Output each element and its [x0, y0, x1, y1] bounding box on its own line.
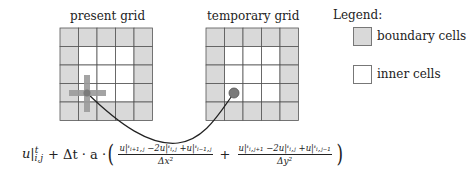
legend-label-boundary: boundary cells: [377, 29, 466, 43]
boundary-cell: [243, 28, 262, 47]
boundary-cell: [280, 47, 299, 66]
boundary-cell: [225, 102, 244, 121]
boundary-cell: [280, 65, 299, 84]
boundary-cell: [134, 28, 153, 47]
boundary-cell: [116, 102, 135, 121]
legend-swatch-inner: [353, 65, 372, 84]
formula-plus: +: [220, 147, 231, 162]
formula-lhs: u|ti,j: [22, 145, 43, 164]
inner-cell: [116, 84, 135, 103]
inner-cell: [116, 65, 135, 84]
boundary-cell: [116, 28, 135, 47]
boundary-cell: [60, 65, 79, 84]
formula-time-step: + Δt · a ·: [48, 147, 106, 162]
inner-cell: [262, 65, 281, 84]
inner-cell: [243, 47, 262, 66]
inner-cell: [262, 84, 281, 103]
present-grid: [60, 28, 153, 121]
boundary-cell: [206, 84, 225, 103]
boundary-cell: [262, 102, 281, 121]
legend-swatch-boundary: [353, 27, 372, 46]
boundary-cell: [262, 28, 281, 47]
inner-cell: [243, 65, 262, 84]
inner-cell: [97, 47, 116, 66]
boundary-cell: [60, 47, 79, 66]
inner-cell: [243, 84, 262, 103]
inner-cell: [225, 47, 244, 66]
boundary-cell: [79, 28, 98, 47]
update-formula: u|ti,j + Δt · a · ( u|ᵗᵢ₊₁,ⱼ −2u|ᵗᵢ,ⱼ +u…: [22, 142, 344, 166]
inner-cell: [262, 47, 281, 66]
boundary-cell: [206, 28, 225, 47]
boundary-cell: [60, 28, 79, 47]
boundary-cell: [206, 65, 225, 84]
legend-label-inner: inner cells: [377, 67, 441, 81]
boundary-cell: [134, 47, 153, 66]
boundary-cell: [206, 47, 225, 66]
formula-open-paren: (: [108, 142, 115, 166]
boundary-cell: [280, 102, 299, 121]
boundary-cell: [60, 102, 79, 121]
inner-cell: [116, 47, 135, 66]
formula-close-paren: ): [336, 142, 343, 166]
boundary-cell: [97, 28, 116, 47]
inner-cell: [225, 65, 244, 84]
temporary-grid: [206, 28, 299, 121]
inner-cell: [97, 65, 116, 84]
target-cell-dot-icon: [229, 88, 239, 98]
formula-fraction-y: u|ᵗᵢ,ⱼ₊₁ −2u|ᵗᵢ,ⱼ +u|ᵗᵢ,ⱼ₋₁ Δy²: [238, 143, 332, 166]
legend-title: Legend:: [333, 8, 382, 22]
boundary-cell: [280, 84, 299, 103]
boundary-cell: [225, 28, 244, 47]
boundary-cell: [134, 84, 153, 103]
boundary-cell: [134, 102, 153, 121]
boundary-cell: [280, 28, 299, 47]
boundary-cell: [243, 102, 262, 121]
inner-cell: [79, 47, 98, 66]
boundary-cell: [134, 65, 153, 84]
formula-fraction-x: u|ᵗᵢ₊₁,ⱼ −2u|ᵗᵢ,ⱼ +u|ᵗᵢ₋₁,ⱼ Δx²: [118, 143, 212, 166]
